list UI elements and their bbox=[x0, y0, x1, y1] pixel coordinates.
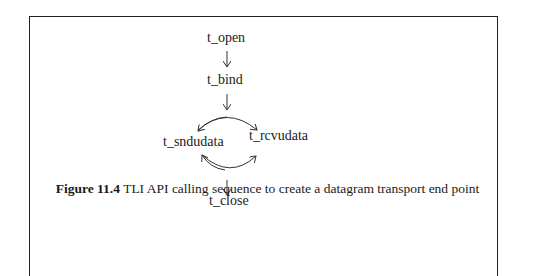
figure-caption: Figure 11.4 TLI API calling sequence to … bbox=[0, 181, 535, 197]
arc-arrow-icon bbox=[198, 117, 227, 131]
arc-arrow-icon bbox=[202, 155, 225, 170]
arc-arrow-icon bbox=[202, 155, 256, 168]
caption-number: Figure 11.4 bbox=[56, 181, 120, 196]
caption-text: TLI API calling sequence to create a dat… bbox=[120, 181, 479, 196]
